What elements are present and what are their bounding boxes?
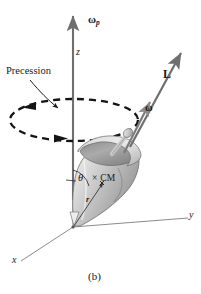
precession-figure: ωp z Precession L ω θ × CM r y x (b): [0, 0, 201, 294]
x-axis-label: x: [12, 255, 16, 265]
figure-caption: (b): [88, 271, 101, 282]
r-vector-label: r: [86, 196, 89, 204]
precession-label: Precession: [6, 66, 51, 77]
z-axis-label: z: [76, 47, 80, 57]
center-of-mass-label: × CM: [92, 174, 115, 184]
L-vector: [130, 53, 181, 147]
figure-canvas: [0, 0, 201, 294]
y-axis-label: y: [189, 210, 193, 220]
x-axis-line: [21, 227, 73, 261]
theta-label: θ: [78, 173, 83, 184]
omega-p-label: ωp: [88, 14, 100, 27]
omega-label: ω: [145, 103, 153, 114]
angular-momentum-label: L: [163, 68, 171, 80]
